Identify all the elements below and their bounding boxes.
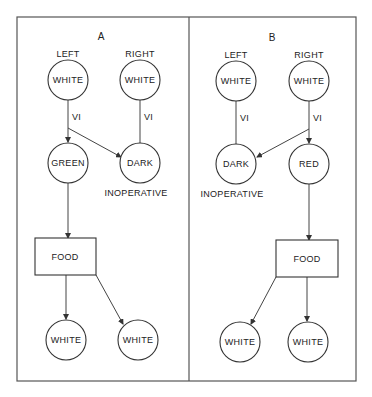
left-middle-node-label: DARK (223, 159, 249, 169)
left-bottom-node-label: WHITE (51, 335, 82, 345)
right-vi-label: VI (144, 112, 153, 122)
panel-a: A LEFT RIGHT VI VI WHITE WHITE GREEN DAR… (35, 31, 168, 360)
right-bottom-node-label: WHITE (123, 335, 154, 345)
right-eye-label: RIGHT (294, 50, 324, 60)
right-top-node-label: WHITE (294, 76, 325, 86)
left-vi-label: VI (72, 112, 81, 122)
right-middle-node-label: DARK (127, 158, 153, 168)
left-eye-label: LEFT (56, 49, 79, 59)
left-bottom-node-label: WHITE (225, 337, 256, 347)
diagram: A LEFT RIGHT VI VI WHITE WHITE GREEN DAR… (0, 0, 372, 397)
arrow-food-to-left-white (251, 277, 276, 324)
arrow-food-to-right-white (96, 275, 123, 324)
inoperative-note: INOPERATIVE (200, 189, 263, 199)
left-eye-label: LEFT (224, 50, 247, 60)
right-top-node-label: WHITE (125, 75, 156, 85)
right-vi-label: VI (313, 113, 322, 123)
panel-title: A (98, 31, 105, 42)
right-middle-node-label: RED (299, 159, 319, 169)
right-bottom-node-label: WHITE (293, 337, 324, 347)
left-vi-label: VI (240, 113, 249, 123)
left-middle-node-label: GREEN (51, 158, 85, 168)
left-top-node-label: WHITE (221, 76, 252, 86)
food-box-label: FOOD (293, 254, 320, 264)
inoperative-note: INOPERATIVE (104, 188, 167, 198)
panel-title: B (269, 32, 276, 43)
left-top-node-label: WHITE (53, 75, 84, 85)
right-eye-label: RIGHT (125, 49, 155, 59)
panel-b: B LEFT RIGHT VI VI WHITE WHITE DARK RED … (200, 32, 338, 362)
food-box-label: FOOD (51, 252, 78, 262)
